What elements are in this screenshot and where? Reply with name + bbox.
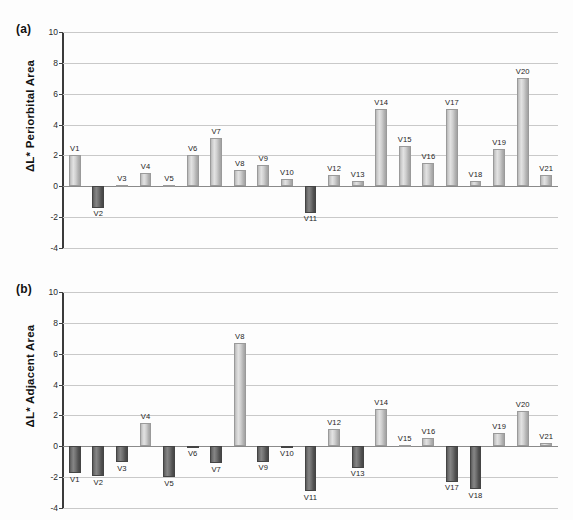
bar-label-a-V16: V16: [415, 152, 441, 161]
bar-label-a-V15: V15: [392, 135, 418, 144]
y-tick-mark-a-4: [59, 125, 63, 126]
bar-label-a-V7: V7: [203, 127, 229, 136]
bar-a-V6: [187, 155, 199, 186]
gridline-a-10: [63, 32, 558, 33]
bar-a-V1: [69, 155, 81, 186]
bar-label-b-V1: V1: [62, 475, 88, 484]
bar-label-a-V6: V6: [180, 144, 206, 153]
bar-label-b-V12: V12: [321, 418, 347, 427]
bar-label-b-V16: V16: [415, 427, 441, 436]
y-tick-label-a-0: 0: [53, 181, 58, 191]
y-tick-label-b-0: 0: [53, 441, 58, 451]
figure-panels: (a) ΔL* Periorbital Area -4-20246810V1V2…: [0, 0, 573, 520]
bar-a-V7: [210, 138, 222, 186]
y-tick-label-b--4: -4: [50, 503, 58, 513]
panel-a-plot-area: -4-20246810V1V2V3V4V5V6V7V8V9V10V11V12V1…: [63, 32, 558, 248]
gridline-a-6: [63, 94, 558, 95]
bar-label-b-V4: V4: [133, 412, 159, 421]
bar-label-a-V10: V10: [274, 168, 300, 177]
bar-label-a-V12: V12: [321, 164, 347, 173]
bar-label-b-V9: V9: [250, 463, 276, 472]
bar-label-b-V20: V20: [510, 400, 536, 409]
y-tick-label-b--2: -2: [50, 472, 58, 482]
bar-label-a-V5: V5: [156, 174, 182, 183]
bar-a-V2: [92, 186, 104, 208]
bar-label-a-V4: V4: [133, 162, 159, 171]
y-tick-label-a-10: 10: [49, 27, 58, 37]
bar-a-V12: [328, 175, 340, 186]
panel-b-y-axis-title: ΔL* Adjacent Area: [24, 286, 36, 466]
y-tick-mark-a-0: [59, 186, 63, 187]
bar-a-V16: [422, 163, 434, 186]
bar-label-a-V20: V20: [510, 67, 536, 76]
bar-b-V3: [116, 446, 128, 462]
bar-a-V19: [493, 149, 505, 186]
bar-label-b-V6: V6: [180, 449, 206, 458]
y-tick-label-b-6: 6: [53, 349, 58, 359]
bar-label-b-V13: V13: [345, 469, 371, 478]
bar-label-a-V2: V2: [85, 209, 111, 218]
gridline-b-10: [63, 292, 558, 293]
y-tick-mark-b-4: [59, 385, 63, 386]
bar-b-V20: [517, 411, 529, 446]
bar-label-a-V1: V1: [62, 144, 88, 153]
bar-label-a-V14: V14: [368, 98, 394, 107]
y-tick-label-a--2: -2: [50, 212, 58, 222]
y-tick-mark-a-8: [59, 63, 63, 64]
y-tick-mark-a--2: [59, 217, 63, 218]
bar-label-a-V19: V19: [486, 138, 512, 147]
bar-a-V9: [257, 165, 269, 186]
bar-b-V1: [69, 446, 81, 473]
y-tick-mark-b-8: [59, 323, 63, 324]
bar-a-V14: [375, 109, 387, 186]
gridline-b-6: [63, 354, 558, 355]
gridline-b-8: [63, 323, 558, 324]
bar-b-V19: [493, 433, 505, 446]
bar-a-V5: [163, 185, 175, 187]
bar-label-b-V17: V17: [439, 483, 465, 492]
bar-a-V8: [234, 170, 246, 186]
bar-a-V13: [352, 181, 364, 186]
bar-b-V18: [470, 446, 482, 489]
bar-a-V10: [281, 179, 293, 186]
panel-a-y-axis-title: ΔL* Periorbital Area: [24, 26, 36, 206]
bar-label-b-V21: V21: [533, 432, 559, 441]
bar-b-V12: [328, 429, 340, 446]
bar-label-a-V9: V9: [250, 154, 276, 163]
bar-a-V20: [517, 78, 529, 186]
bar-label-b-V10: V10: [274, 449, 300, 458]
y-tick-label-a-8: 8: [53, 58, 58, 68]
bar-a-V17: [446, 109, 458, 186]
gridline-a--4: [63, 248, 558, 249]
y-tick-label-a-2: 2: [53, 150, 58, 160]
bar-b-V15: [399, 445, 411, 447]
panel-b: (b) ΔL* Adjacent Area -4-20246810V1V2V3V…: [0, 260, 573, 520]
bar-label-a-V21: V21: [533, 164, 559, 173]
gridline-a-8: [63, 63, 558, 64]
bar-b-V5: [163, 446, 175, 477]
bar-a-V3: [116, 185, 128, 187]
gridline-b--4: [63, 508, 558, 509]
bar-a-V21: [540, 175, 552, 187]
bar-label-b-V18: V18: [463, 491, 489, 500]
y-tick-label-b-8: 8: [53, 318, 58, 328]
bar-label-b-V8: V8: [227, 332, 253, 341]
bar-b-V2: [92, 446, 104, 476]
bar-a-V15: [399, 146, 411, 186]
bar-a-V18: [470, 181, 482, 186]
bar-b-V14: [375, 409, 387, 446]
y-tick-mark-b-10: [59, 292, 63, 293]
panel-b-plot-area: -4-20246810V1V2V3V4V5V6V7V8V9V10V11V12V1…: [63, 292, 558, 508]
y-tick-mark-b-2: [59, 415, 63, 416]
gridline-a-2: [63, 155, 558, 156]
y-tick-label-a--4: -4: [50, 243, 58, 253]
bar-label-b-V5: V5: [156, 479, 182, 488]
y-tick-label-a-6: 6: [53, 89, 58, 99]
bar-b-V4: [140, 423, 152, 446]
y-tick-mark-b-0: [59, 446, 63, 447]
bar-label-b-V2: V2: [85, 478, 111, 487]
y-tick-label-b-4: 4: [53, 380, 58, 390]
y-tick-mark-b--4: [59, 508, 63, 509]
y-tick-mark-a-2: [59, 155, 63, 156]
panel-a: (a) ΔL* Periorbital Area -4-20246810V1V2…: [0, 0, 573, 260]
